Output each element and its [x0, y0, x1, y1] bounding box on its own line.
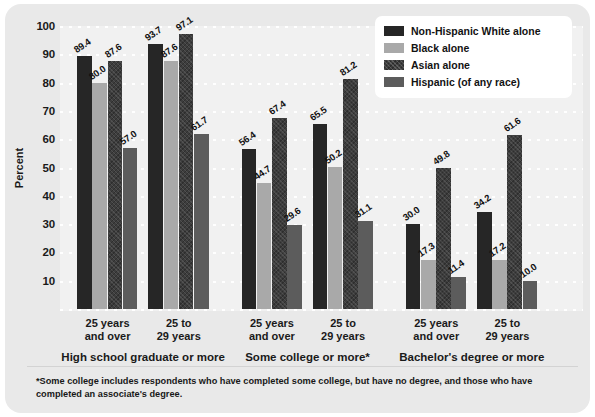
legend-swatch-icon: [384, 77, 404, 87]
x-axis-group-title: Bachelor's degree or more: [372, 351, 572, 363]
x-axis-tick-label: 25 to29 years: [462, 317, 552, 343]
legend-swatch-icon: [384, 60, 404, 70]
x-axis-tick-line: 29 years: [134, 330, 224, 343]
y-axis-tick-label: 90: [9, 48, 55, 60]
x-axis-tick-label: 25 to29 years: [134, 317, 224, 343]
bar-value-label: 67.4: [267, 98, 288, 117]
bar: [257, 183, 272, 310]
axis-baseline: [60, 309, 583, 311]
bar-value-label: 61.6: [502, 115, 523, 134]
legend: Non-Hispanic White alone Black alone Asi…: [375, 16, 572, 98]
legend-swatch-icon: [384, 26, 404, 36]
footnote-divider: [27, 366, 578, 367]
bar-value-label: 30.0: [401, 204, 422, 223]
bar: [451, 277, 466, 309]
footnote: *Some college includes respondents who h…: [36, 375, 556, 400]
y-axis-tick-label: 20: [9, 246, 55, 258]
y-axis-title: Percent: [13, 128, 25, 208]
legend-swatch-icon: [384, 43, 404, 53]
chart-card: 102030405060708090100 Percent 89.480.087…: [5, 4, 590, 413]
bar: [477, 212, 492, 309]
x-axis-tick-label: 25 to29 years: [298, 317, 388, 343]
bar: [436, 168, 451, 309]
legend-item-non-hispanic-white: Non-Hispanic White alone: [384, 23, 564, 39]
y-axis-tick-label: 30: [9, 218, 55, 230]
bar: [108, 61, 123, 309]
bar: [92, 83, 107, 309]
bar: [523, 281, 538, 309]
bar-value-label: 65.5: [307, 103, 328, 122]
legend-label: Non-Hispanic White alone: [411, 25, 541, 37]
bar-value-label: 87.6: [102, 41, 123, 60]
legend-label: Hispanic (of any race): [411, 76, 520, 88]
bar: [77, 56, 92, 309]
bar: [287, 225, 302, 309]
bar: [421, 260, 436, 309]
bar-value-label: 56.4: [236, 129, 257, 148]
bar: [179, 34, 194, 309]
x-axis-tick-line: 29 years: [462, 330, 552, 343]
legend-item-black-alone: Black alone: [384, 40, 564, 56]
bar: [194, 134, 209, 309]
x-axis-tick-line: 25 to: [462, 317, 552, 330]
bar-value-label: 49.8: [431, 148, 452, 167]
bar: [492, 260, 507, 309]
bar: [313, 124, 328, 309]
bar: [358, 221, 373, 309]
bar-value-label: 34.2: [472, 192, 493, 211]
y-axis-tick-label: 80: [9, 77, 55, 89]
bar-value-label: 97.1: [173, 14, 194, 33]
x-axis-tick-line: 29 years: [298, 330, 388, 343]
y-axis-tick-label: 70: [9, 105, 55, 117]
x-axis-tick-line: 25 to: [134, 317, 224, 330]
bar: [164, 61, 179, 309]
legend-item-asian-alone: Asian alone: [384, 57, 564, 73]
bar: [123, 148, 138, 309]
bar: [343, 79, 358, 309]
x-axis-tick-line: 25 to: [298, 317, 388, 330]
bar-value-label: 93.7: [143, 24, 164, 43]
bar-value-label: 89.4: [72, 36, 93, 55]
y-axis-tick-label: 100: [9, 20, 55, 32]
bar-value-label: 81.2: [338, 59, 359, 78]
legend-label: Asian alone: [411, 59, 470, 71]
bar: [406, 224, 421, 309]
bar: [148, 44, 163, 309]
chart-screenshot: 102030405060708090100 Percent 89.480.087…: [0, 0, 595, 417]
bar: [328, 167, 343, 309]
legend-label: Black alone: [411, 42, 469, 54]
legend-item-hispanic: Hispanic (of any race): [384, 74, 564, 90]
bar: [507, 135, 522, 309]
y-axis-tick-label: 10: [9, 275, 55, 287]
